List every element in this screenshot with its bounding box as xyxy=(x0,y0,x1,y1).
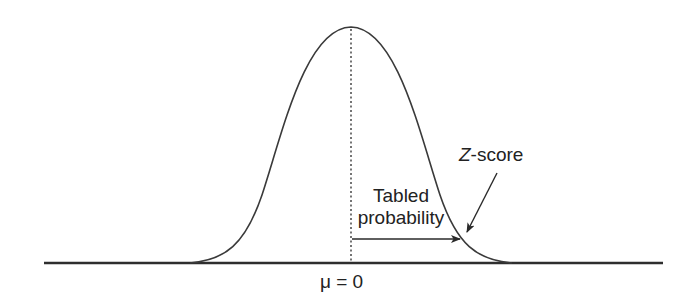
zscore-pointer-arrow xyxy=(467,173,497,232)
mean-label: μ = 0 xyxy=(320,272,363,291)
zscore-label-z: Z xyxy=(459,144,471,165)
tabled-probability-label: Tabled probability xyxy=(352,185,450,229)
normal-distribution-diagram: Tabled probability Z-score μ = 0 xyxy=(0,0,694,305)
zscore-label: Z-score xyxy=(459,145,523,164)
tabled-label-line2: probability xyxy=(352,207,450,229)
diagram-graphic xyxy=(0,0,694,305)
zscore-label-rest: -score xyxy=(471,144,524,165)
tabled-label-line1: Tabled xyxy=(352,185,450,207)
